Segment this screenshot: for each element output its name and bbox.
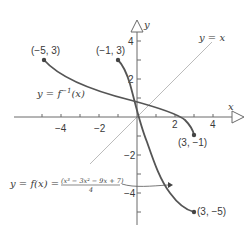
point-marker: [192, 210, 196, 214]
point-label: (−5, 3): [31, 45, 60, 56]
y-tick-label: −2: [124, 150, 136, 161]
x-axis-arrow-icon: [232, 111, 244, 123]
x-tick-label: 4: [210, 119, 216, 130]
x-tick-label: −2: [94, 123, 106, 134]
f-numerator: (x³ − 3x² − 9x + 7): [61, 177, 124, 185]
point-marker: [116, 58, 120, 62]
pointer-arrowhead-icon: [168, 182, 173, 188]
y-axis-arrow-icon: [131, 20, 143, 32]
point-label: (3, −1): [178, 137, 207, 148]
graph-canvas: −4 −2 2 4 4 2 −2 −4 x y (−5, 3) (−1, 3) …: [0, 0, 252, 236]
y-axis-label: y: [143, 19, 150, 30]
y-tick-label: −4: [124, 188, 136, 199]
pointer-arrow: [122, 184, 168, 186]
point-label: (−1, 3): [96, 45, 125, 56]
point-label: (3, −5): [197, 206, 226, 217]
inverse-label: y = f−1(x): [36, 87, 85, 99]
x-axis-label: x: [228, 101, 234, 112]
x-tick-label: −4: [55, 123, 67, 134]
point-marker: [42, 58, 46, 62]
f-denominator: 4: [88, 186, 93, 194]
y-tick-label: 4: [128, 36, 134, 47]
identity-label: y = x: [198, 32, 225, 43]
f-label: y = f(x) =: [9, 178, 59, 189]
x-tick-label: 2: [172, 119, 178, 130]
